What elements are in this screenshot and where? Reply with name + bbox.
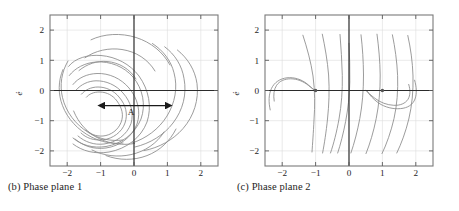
x-axis-label: e (132, 178, 136, 180)
phase-plane-figure: A 2 1 0 −1 −2 (0, 0, 459, 211)
x-tick-label: 0 (132, 168, 137, 178)
x-tick-label: 0 (347, 168, 352, 178)
panel-phase-plane-2: 2 1 0 −1 −2 −2 −1 0 1 2 e ė (c) Phase p… (229, 0, 459, 211)
y-tick-label: 0 (254, 86, 259, 96)
y-tick-label: −2 (34, 146, 44, 156)
x-tick-label: −2 (277, 168, 287, 178)
panel-phase-plane-1: A 2 1 0 −1 −2 (0, 0, 230, 211)
y-tick-label: −2 (249, 146, 259, 156)
panel-caption: (b) Phase plane 1 (8, 181, 82, 192)
x-tick-label: −1 (96, 168, 106, 178)
x-tick-label: −1 (311, 168, 321, 178)
panel-caption: (c) Phase plane 2 (237, 181, 311, 192)
x-tick-label: 2 (199, 168, 204, 178)
y-tick-label: 0 (39, 86, 44, 96)
x-tick-label: −2 (62, 168, 72, 178)
y-tick-label: 1 (39, 56, 44, 66)
x-tick-label: 1 (165, 168, 170, 178)
equilibrium-point-left (314, 89, 317, 92)
y-tick-label: 1 (254, 56, 259, 66)
y-axis-label: ė (231, 91, 241, 95)
y-axis-label: ė (14, 91, 24, 95)
y-tick-label: 2 (39, 25, 44, 35)
annotation-label-A: A (128, 107, 135, 117)
y-tick-label: −1 (34, 116, 44, 126)
y-tick-label: 2 (254, 25, 259, 35)
x-tick-label: 1 (380, 168, 385, 178)
phase-plane-2-plot: 2 1 0 −1 −2 −2 −1 0 1 2 e ė (229, 0, 459, 180)
y-tick-label: −1 (249, 116, 259, 126)
equilibrium-point-right (381, 89, 384, 92)
x-tick-label: 2 (414, 168, 419, 178)
phase-plane-1-plot: A 2 1 0 −1 −2 (0, 0, 230, 180)
x-axis-label: e (347, 178, 351, 180)
